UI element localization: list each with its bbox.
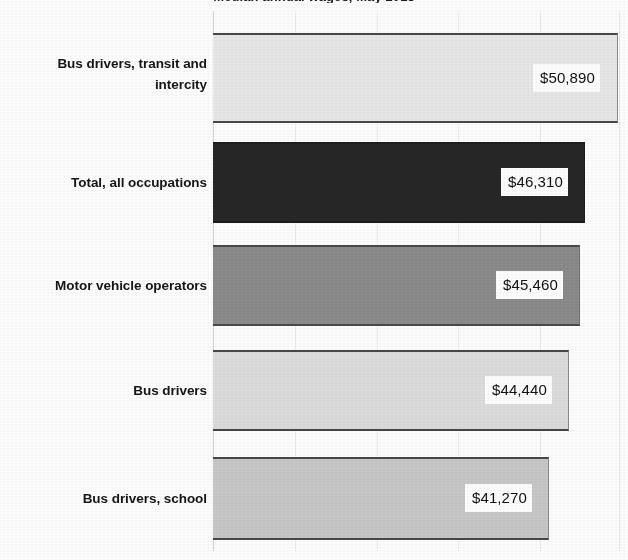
category-label: Bus drivers, school <box>0 488 207 509</box>
bar-row: Bus drivers $44,440 <box>0 350 628 431</box>
bar-container: $50,890 <box>213 33 618 123</box>
bar-value-label: $44,440 <box>485 376 552 404</box>
bar-container: $44,440 <box>213 350 569 431</box>
bar-container: $41,270 <box>213 457 549 540</box>
category-label-line1: Bus drivers, transit and <box>0 53 207 74</box>
category-label: Bus drivers, transit and intercity <box>0 53 207 95</box>
bar-value-label: $41,270 <box>465 484 532 512</box>
bar-chart: Median annual wages, May 2015 Bus driver… <box>0 0 628 560</box>
bar-container: $45,460 <box>213 245 580 326</box>
category-label: Bus drivers <box>0 380 207 401</box>
bar-row: Bus drivers, transit and intercity $50,8… <box>0 33 628 123</box>
category-label: Motor vehicle operators <box>0 275 207 296</box>
bar-row: Bus drivers, school $41,270 <box>0 457 628 540</box>
bar-value-label: $50,890 <box>533 64 600 92</box>
category-label-line2: intercity <box>0 74 207 95</box>
category-label-line1: Bus drivers, school <box>0 488 207 509</box>
bar-row: Total, all occupations $46,310 <box>0 142 628 223</box>
bar-value-label: $45,460 <box>496 271 563 299</box>
category-label: Total, all occupations <box>0 172 207 193</box>
chart-title: Median annual wages, May 2015 <box>0 0 628 3</box>
bar-container: $46,310 <box>213 142 585 223</box>
bar-value-label: $46,310 <box>501 168 568 196</box>
bar-row: Motor vehicle operators $45,460 <box>0 245 628 326</box>
category-label-line1: Total, all occupations <box>0 172 207 193</box>
category-label-line1: Bus drivers <box>0 380 207 401</box>
category-label-line1: Motor vehicle operators <box>0 275 207 296</box>
